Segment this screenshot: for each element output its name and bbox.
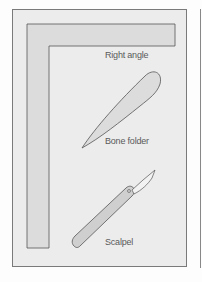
right-angle-label: Right angle xyxy=(105,50,148,60)
bone-folder-label: Bone folder xyxy=(105,136,149,146)
scalpel-label: Scalpel xyxy=(105,237,133,247)
tools-illustration xyxy=(0,0,202,282)
scalpel-blade-shape xyxy=(132,170,155,194)
